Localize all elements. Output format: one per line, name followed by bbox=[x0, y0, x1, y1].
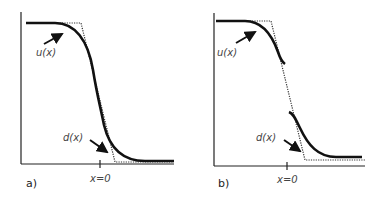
panel-label: a) bbox=[26, 177, 37, 190]
d-label: d(x) bbox=[63, 132, 83, 143]
d-curve bbox=[26, 23, 174, 162]
u-label: u(x) bbox=[217, 47, 237, 58]
x-tick-label: x=0 bbox=[276, 174, 298, 185]
figure: u(x) d(x) x=0 a) u(x) d(x) x=0 b) bbox=[0, 0, 384, 200]
x-tick-label: x=0 bbox=[89, 173, 111, 184]
panel-label: b) bbox=[218, 177, 229, 190]
panel-b: u(x) d(x) x=0 b) bbox=[214, 13, 365, 190]
d-arrow bbox=[90, 140, 107, 152]
panel-a: u(x) d(x) x=0 a) bbox=[21, 12, 174, 190]
d-arrow bbox=[284, 140, 300, 151]
d-label: d(x) bbox=[256, 132, 276, 143]
u-arrow bbox=[236, 32, 255, 43]
u-arrow bbox=[44, 34, 62, 44]
u-label: u(x) bbox=[36, 47, 56, 58]
u-curve bbox=[26, 23, 174, 161]
